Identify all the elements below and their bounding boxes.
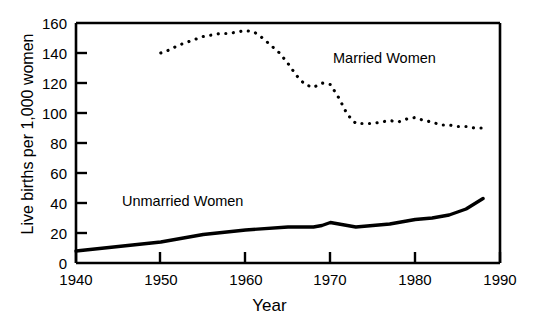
plot-area [0, 0, 539, 327]
x-axis-ticks [76, 252, 500, 263]
series-line-unmarried-women [76, 199, 483, 252]
y-axis-ticks [76, 53, 87, 233]
data-series-group [76, 31, 483, 252]
series-line-married-women [161, 31, 483, 129]
chart-container: Live births per 1,000 women 160 140 120 … [0, 0, 539, 327]
